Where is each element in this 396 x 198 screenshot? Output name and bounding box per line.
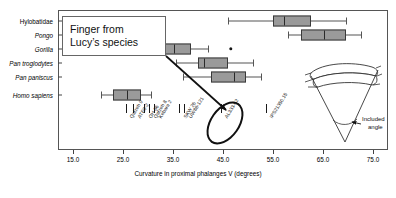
x-tick xyxy=(273,150,274,154)
figure-boxplot-phalanx-curvature: HylobatidaePongoGorillaPan troglodytesPa… xyxy=(0,0,396,198)
median-line-hylobatidae xyxy=(284,17,285,26)
whisker-cap-gorilla-high xyxy=(208,46,209,53)
specimen-tick-ate9-2 xyxy=(133,104,134,113)
y-axis-label-pan-troglodytes: Pan troglodytes xyxy=(0,60,53,67)
median-line-homo-sapiens xyxy=(127,91,128,100)
whisker-cap-pan-troglodytes-high xyxy=(253,60,254,67)
x-tick-label-45.0: 45.0 xyxy=(217,156,229,163)
specimen-tick-ips21350-15 xyxy=(266,104,267,113)
x-tick-label-15.0: 15.0 xyxy=(67,156,79,163)
whisker-cap-homo-sapiens-high xyxy=(151,92,152,99)
specimen-tick-qafzeh-8 xyxy=(149,104,150,113)
whisker-cap-pan-troglodytes-low xyxy=(176,60,177,67)
callout-box: Finger from Lucy’s species xyxy=(62,16,166,56)
x-tick xyxy=(323,150,324,154)
box-pongo xyxy=(301,30,346,41)
box-pan-troglodytes xyxy=(198,58,228,69)
y-tick xyxy=(58,77,62,78)
specimen-tick-uw88-121 xyxy=(184,104,185,113)
x-tick xyxy=(123,150,124,154)
y-axis-label-homo-sapiens: Homo sapiens xyxy=(0,92,53,99)
x-tick-label-55.0: 55.0 xyxy=(267,156,279,163)
box-pan-paniscus xyxy=(211,72,246,83)
y-axis-label-pongo: Pongo xyxy=(0,32,53,39)
whisker-cap-homo-sapiens-low xyxy=(101,92,102,99)
y-tick xyxy=(58,95,62,96)
callout-line-1: Finger from xyxy=(70,23,165,36)
x-tick-label-35.0: 35.0 xyxy=(167,156,179,163)
whisker-cap-pongo-low xyxy=(288,32,289,39)
y-axis-label-hylobatidae: Hylobatidae xyxy=(0,18,53,25)
specimen-tick-qafzeh-9 xyxy=(126,104,127,113)
y-axis-label-gorilla: Gorilla xyxy=(0,46,53,53)
whisker-cap-hylobatidae-high xyxy=(346,18,347,25)
x-axis-label: Curvature in proximal phalanges V (degre… xyxy=(0,170,396,177)
y-tick xyxy=(58,63,62,64)
box-hylobatidae xyxy=(273,16,311,27)
whisker-cap-hylobatidae-low xyxy=(228,18,229,25)
inset-caption-line-2: angle xyxy=(368,124,383,131)
x-tick xyxy=(373,150,374,154)
x-tick-label-65.0: 65.0 xyxy=(317,156,329,163)
specimen-tick-oh-86 xyxy=(144,104,145,113)
specimen-tick-kebara-2 xyxy=(154,104,155,113)
whisker-cap-pan-paniscus-high xyxy=(261,74,262,81)
x-tick xyxy=(223,150,224,154)
callout-line-2: Lucy’s species xyxy=(70,36,165,49)
whisker-cap-pan-paniscus-low xyxy=(183,74,184,81)
x-tick xyxy=(173,150,174,154)
median-line-pan-paniscus xyxy=(234,73,235,82)
x-tick-label-75.0: 75.0 xyxy=(367,156,379,163)
box-homo-sapiens xyxy=(113,90,141,101)
median-line-pongo xyxy=(324,31,325,40)
specimen-tick-skw-26 xyxy=(179,104,180,113)
box-gorilla xyxy=(163,44,191,55)
whisker-cap-pongo-high xyxy=(361,32,362,39)
inset-caption-line-1: Included xyxy=(362,116,385,123)
median-line-gorilla xyxy=(174,45,175,54)
median-line-pan-troglodytes xyxy=(204,59,205,68)
x-tick-label-25.0: 25.0 xyxy=(117,156,129,163)
x-tick xyxy=(73,150,74,154)
y-axis-label-pan-paniscus: Pan paniscus xyxy=(0,74,53,81)
